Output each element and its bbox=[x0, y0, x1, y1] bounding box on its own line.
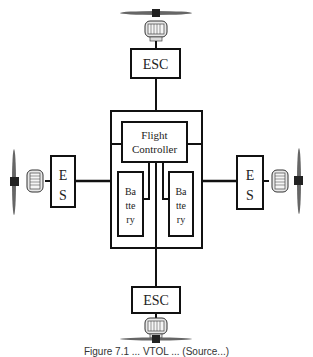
motor-left bbox=[27, 170, 43, 192]
battery-left-label-3: ry bbox=[126, 214, 134, 225]
esc-right-label-1: E bbox=[246, 168, 255, 183]
esc-right-box: E S bbox=[237, 156, 263, 209]
motor-top bbox=[145, 21, 167, 41]
esc-bottom-label: ESC bbox=[143, 293, 169, 308]
flight-controller-label-1: Flight bbox=[141, 129, 167, 141]
esc-top-box: ESC bbox=[131, 49, 180, 78]
battery-right-box: Ba tte ry bbox=[169, 172, 193, 236]
propeller-bottom bbox=[120, 335, 192, 343]
motor-right bbox=[272, 170, 288, 192]
esc-left-label-2: S bbox=[59, 188, 67, 203]
esc-bottom-box: ESC bbox=[132, 287, 180, 313]
battery-left-label-2: tte bbox=[126, 200, 137, 211]
propeller-right bbox=[294, 148, 303, 214]
propeller-top bbox=[120, 9, 192, 17]
battery-left-label-1: Ba bbox=[125, 186, 137, 197]
battery-right-label-3: ry bbox=[177, 214, 185, 225]
esc-left-box: E S bbox=[51, 156, 75, 207]
battery-right-label-2: tte bbox=[176, 200, 187, 211]
battery-left-box: Ba tte ry bbox=[118, 172, 143, 236]
flight-controller-label-2: Controller bbox=[132, 143, 178, 155]
esc-left-label-1: E bbox=[59, 168, 68, 183]
propeller-left bbox=[10, 149, 19, 215]
battery-right-label-1: Ba bbox=[175, 186, 187, 197]
esc-top-label: ESC bbox=[143, 57, 169, 72]
flight-controller-box: Flight Controller bbox=[122, 122, 187, 162]
figure-caption: Figure 7.1 ... VTOL ... (Source...) bbox=[0, 346, 313, 357]
esc-right-label-2: S bbox=[246, 188, 254, 203]
